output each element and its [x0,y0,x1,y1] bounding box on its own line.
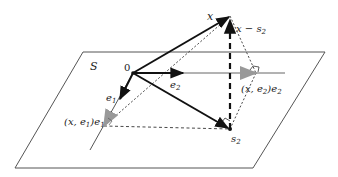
s2-point [228,127,232,131]
vector-x [133,17,229,73]
origin-label: 0 [124,62,130,73]
dotted-proj-e2-to-s2 [230,73,256,129]
plane-s [15,52,325,168]
proj-e2-label: (x, e2)e2 [241,83,282,96]
e2-label: e2 [170,79,181,92]
dotted-origin-to-x [104,16,230,126]
origin-point [131,71,135,75]
right-angle-mark-e2 [250,66,259,72]
e1-label: e1 [106,92,116,105]
plane-label: S [90,60,98,73]
right-angle-mark-s2 [222,118,230,122]
s2-label: s2 [231,133,241,146]
proj-e1-label: (x, e1)e1 [64,116,105,129]
vector-s2 [133,73,228,128]
x-minus-s2-label: x − s2 [236,23,267,36]
x-label: x [207,10,214,23]
projection-diagram: S 0 x x − s2 e1 e2 (x, e1)e1 (x, e2)e2 s… [0,0,338,177]
vector-e1 [120,73,133,99]
dotted-proj-e1-to-s2 [104,126,230,129]
